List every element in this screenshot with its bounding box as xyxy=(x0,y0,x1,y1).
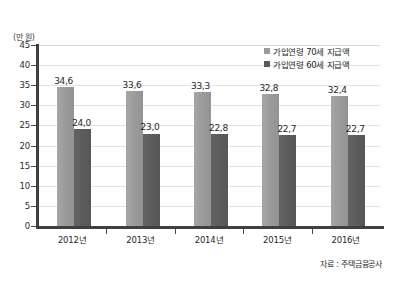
y-axis-tick-label: 40 xyxy=(8,60,30,70)
legend-label-series-b: 가입연령 60세 지급액 xyxy=(273,58,350,70)
bar-series-b xyxy=(348,135,365,226)
x-axis-label: 2013년 xyxy=(106,233,174,245)
y-axis-tick-mark xyxy=(31,45,36,46)
bar-group: 32,422,7 xyxy=(331,45,365,226)
y-axis-tick-mark xyxy=(31,226,36,227)
bar-chart: (만 원) 34,624,033,623,033,322,832,822,732… xyxy=(0,0,400,292)
legend-label-series-a: 가입연령 70세 지급액 xyxy=(273,45,350,57)
x-axis-label: 2015년 xyxy=(243,233,311,245)
bar-value-label: 33,6 xyxy=(123,80,142,90)
bar-series-a xyxy=(331,96,348,226)
x-axis-line xyxy=(36,226,384,229)
y-axis-tick-mark xyxy=(31,166,36,167)
bar-series-b xyxy=(279,135,296,226)
bar-series-b xyxy=(211,134,228,226)
y-axis-tick-label: 15 xyxy=(8,161,30,171)
bar-value-label: 22,8 xyxy=(209,123,228,133)
y-axis-tick-mark xyxy=(31,206,36,207)
bar-value-label: 23,0 xyxy=(141,122,160,132)
bar-value-label: 33,3 xyxy=(191,81,210,91)
bar-series-b xyxy=(143,134,160,227)
y-axis-tick-label: 30 xyxy=(8,100,30,110)
y-axis-tick-label: 0 xyxy=(8,221,30,231)
y-axis-tick-mark xyxy=(31,85,36,86)
bar-value-label: 24,0 xyxy=(72,118,91,128)
x-axis-label: 2012년 xyxy=(38,233,106,245)
plot-area: 34,624,033,623,033,322,832,822,732,422,7 xyxy=(38,45,380,226)
bar-series-b xyxy=(74,129,91,226)
bar-series-a xyxy=(262,94,279,226)
y-axis-tick-label: 10 xyxy=(8,181,30,191)
y-axis-tick-mark xyxy=(31,65,36,66)
bar-group: 33,623,0 xyxy=(126,45,160,226)
y-axis-tick-mark xyxy=(31,146,36,147)
y-axis-tick-mark xyxy=(31,186,36,187)
y-axis-tick-label: 45 xyxy=(8,40,30,50)
bar-series-a xyxy=(194,92,211,226)
x-axis-label: 2016년 xyxy=(312,233,380,245)
y-axis-tick-mark xyxy=(31,125,36,126)
legend-swatch-icon-series-a xyxy=(264,48,270,54)
chart-legend: 가입연령 70세 지급액 가입연령 60세 지급액 xyxy=(264,45,350,71)
bar-group: 32,822,7 xyxy=(262,45,296,226)
bar-group: 34,624,0 xyxy=(57,45,91,226)
y-axis-line xyxy=(36,44,39,228)
legend-item-series-b: 가입연령 60세 지급액 xyxy=(264,58,350,70)
bar-value-label: 32,4 xyxy=(328,85,347,95)
x-axis-label: 2014년 xyxy=(175,233,243,245)
bar-value-label: 32,8 xyxy=(259,83,278,93)
bar-value-label: 22,7 xyxy=(277,124,296,134)
bar-series-a xyxy=(57,87,74,226)
y-axis-tick-label: 25 xyxy=(8,120,30,130)
bar-value-label: 34,6 xyxy=(54,76,73,86)
source-note: 자료 : 주택금융공사 xyxy=(320,258,382,269)
bar-series-a xyxy=(126,91,143,226)
legend-item-series-a: 가입연령 70세 지급액 xyxy=(264,45,350,57)
legend-swatch-icon-series-b xyxy=(264,61,270,67)
y-axis-tick-label: 5 xyxy=(8,201,30,211)
bar-group: 33,322,8 xyxy=(194,45,228,226)
bar-value-label: 22,7 xyxy=(346,124,365,134)
y-axis-tick-mark xyxy=(31,105,36,106)
y-axis-tick-label: 20 xyxy=(8,141,30,151)
y-axis-tick-label: 35 xyxy=(8,80,30,90)
